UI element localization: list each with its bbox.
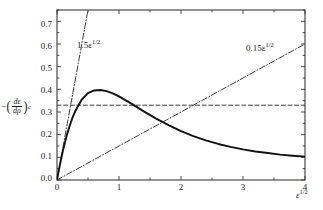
y-axis-title-minus: − — [1, 102, 6, 111]
y-axis-title-paren-close: ) — [23, 99, 27, 114]
x-axis-title-exponent: 1/2 — [300, 188, 308, 195]
y-axis-title-denominator: dρ — [12, 106, 22, 115]
x-axis-title: ε1/2 — [296, 191, 308, 200]
x-tick-label: 2 — [172, 183, 190, 192]
y-axis-title: −(dεdρ)c — [1, 98, 31, 115]
chart-figure: 0.70.60.50.40.30.20.10.0 01234 1.5ε1/20.… — [0, 0, 323, 210]
y-axis-title-paren-open: ( — [7, 99, 11, 114]
lower-bound-label-text: 0.15ε — [246, 43, 266, 53]
y-tick-label: 0.0 — [28, 174, 52, 183]
y-tick-label: 0.1 — [28, 152, 52, 161]
y-tick-label: 0.3 — [28, 108, 52, 117]
y-tick-label: 0.5 — [28, 64, 52, 73]
series-lower-bound-line — [57, 44, 305, 180]
upper-bound-label-text: 1.5ε — [77, 40, 92, 50]
upper-bound-label-exponent: 1/2 — [92, 38, 100, 45]
y-tick-label: 0.4 — [28, 86, 52, 95]
x-tick-label: 0 — [48, 183, 66, 192]
series-main-curve — [57, 90, 305, 180]
plot-frame — [57, 10, 305, 180]
x-tick-label: 3 — [234, 183, 252, 192]
axis-ticks — [57, 10, 305, 180]
y-axis-title-fraction: dεdρ — [12, 98, 22, 115]
y-axis-title-numerator: dε — [12, 98, 21, 106]
y-tick-label: 0.2 — [28, 130, 52, 139]
data-series — [57, 10, 305, 180]
upper-bound-label: 1.5ε1/2 — [77, 41, 100, 50]
x-tick-label: 1 — [110, 183, 128, 192]
lower-bound-label-exponent: 1/2 — [266, 41, 274, 48]
y-tick-label: 0.6 — [28, 42, 52, 51]
y-tick-label: 0.7 — [28, 20, 52, 29]
lower-bound-label: 0.15ε1/2 — [246, 44, 274, 53]
